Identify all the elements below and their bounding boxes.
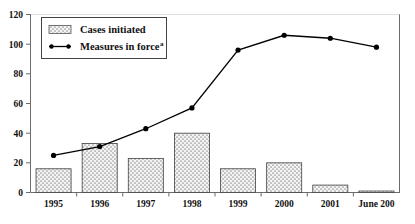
legend-label-cases-initiated: Cases initiated bbox=[80, 24, 146, 35]
data-point-2001 bbox=[328, 36, 333, 41]
data-point-june-200 bbox=[374, 45, 379, 50]
data-point-1998 bbox=[189, 105, 194, 110]
x-label-2001: 2001 bbox=[321, 199, 340, 209]
x-label-1998: 1998 bbox=[182, 199, 201, 209]
x-label-1996: 1996 bbox=[90, 199, 109, 209]
x-axis-tick-labels: 1995199619971998199920002001June 200 bbox=[44, 199, 395, 209]
data-point-2000 bbox=[282, 33, 287, 38]
legend-swatch-cases-initiated bbox=[49, 26, 71, 34]
bar-2001 bbox=[313, 185, 348, 192]
y-tick-0: 0 bbox=[18, 188, 23, 198]
bar-1997 bbox=[128, 158, 163, 192]
legend-label-measures-in-force: Measures in force bbox=[80, 41, 160, 52]
antidumping-chart: 120 100 80 60 40 20 0 199519961997199819… bbox=[0, 0, 415, 224]
data-point-1995 bbox=[51, 153, 56, 158]
x-label-1995: 1995 bbox=[44, 199, 63, 209]
x-label-2000: 2000 bbox=[275, 199, 294, 209]
legend-marker-right-dot bbox=[66, 44, 70, 48]
legend-marker-left-dot bbox=[49, 44, 53, 48]
chart-legend: Cases initiated Measures in force a bbox=[42, 18, 167, 59]
bar-1999 bbox=[221, 169, 256, 193]
data-point-1996 bbox=[97, 144, 102, 149]
x-label-1999: 1999 bbox=[229, 199, 248, 209]
y-axis-tick-labels: 120 100 80 60 40 20 0 bbox=[9, 10, 24, 198]
bar-2000 bbox=[267, 163, 302, 193]
y-tick-120: 120 bbox=[9, 10, 24, 20]
x-label-1997: 1997 bbox=[136, 199, 155, 209]
y-axis-ticks bbox=[26, 15, 31, 193]
y-tick-20: 20 bbox=[14, 158, 24, 168]
data-point-1999 bbox=[235, 48, 240, 53]
chart-figure: 120 100 80 60 40 20 0 199519961997199819… bbox=[0, 0, 415, 224]
bar-1998 bbox=[174, 133, 209, 192]
legend-superscript-a: a bbox=[160, 40, 164, 48]
bar-june-200 bbox=[359, 191, 394, 192]
y-tick-100: 100 bbox=[9, 40, 24, 50]
data-point-1997 bbox=[143, 126, 148, 131]
bar-1995 bbox=[36, 169, 71, 193]
bar-series-cases-initiated bbox=[36, 133, 394, 192]
y-tick-60: 60 bbox=[14, 99, 24, 109]
x-label-june-200: June 200 bbox=[358, 199, 394, 209]
y-tick-40: 40 bbox=[14, 129, 24, 139]
x-axis-ticks bbox=[77, 193, 354, 197]
y-tick-80: 80 bbox=[14, 69, 24, 79]
bar-1996 bbox=[82, 144, 117, 193]
